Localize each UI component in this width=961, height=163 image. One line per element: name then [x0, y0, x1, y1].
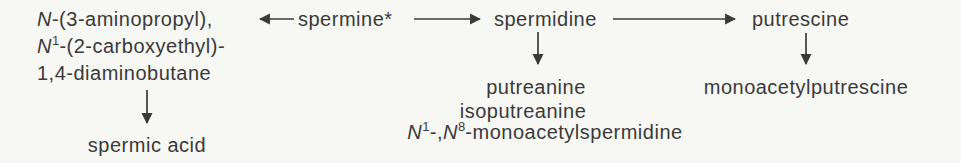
- node-spermidine: spermidine: [494, 7, 597, 31]
- italic-n: N: [37, 35, 52, 57]
- compound-line-2: N1-(2-carboxyethyl)-: [37, 33, 225, 60]
- pathway-diagram: N-(3-aminopropyl), N1-(2-carboxyethyl)- …: [0, 0, 961, 163]
- node-left-compound: N-(3-aminopropyl), N1-(2-carboxyethyl)- …: [37, 6, 225, 87]
- compound-line-3: 1,4-diaminobutane: [37, 60, 225, 87]
- italic-n: N: [37, 8, 52, 30]
- node-spermic-acid: spermic acid: [88, 133, 206, 157]
- italic-n: N: [407, 121, 422, 143]
- node-monoacetylputrescine: monoacetylputrescine: [704, 75, 909, 99]
- node-monoacetylspermidine: N1-,N8-monoacetylspermidine: [407, 120, 682, 144]
- superscript-8: 8: [458, 119, 465, 134]
- node-spermine: spermine*: [298, 7, 393, 31]
- node-putrescine: putrescine: [752, 7, 849, 31]
- italic-n: N: [443, 121, 458, 143]
- node-putreanine: putreanine: [486, 75, 586, 99]
- compound-line-1: N-(3-aminopropyl),: [37, 6, 225, 33]
